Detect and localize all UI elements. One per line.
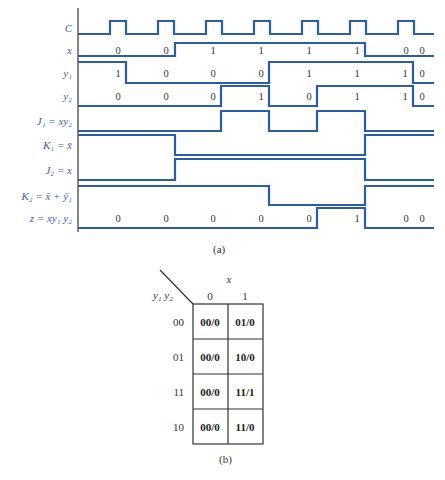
signal-value: 0 [210,68,215,79]
kmap-cell: 00/0 [200,351,220,363]
kmap-cell: 10/0 [235,351,255,363]
signal-label-C: C [65,22,73,34]
signal-value: 0 [419,213,424,224]
kmap-column-header-1: 1 [242,290,248,302]
signal-waveforms: Cx00111100y₁10001110y₂00010110J₁ = xy₂K₁… [20,21,434,228]
signal-value: 1 [354,45,359,56]
signal-value: 1 [115,68,120,79]
signal-label-y2: y₂ [62,90,72,102]
kmap-row-label-00: 00 [173,316,185,328]
figure-a-caption: (a) [213,243,225,255]
signal-label-J1: J₁ = xy₂ [37,115,72,127]
signal-value: 1 [402,91,407,102]
waveform-J2 [78,159,434,180]
signal-value: 0 [115,91,120,102]
signal-value: 1 [210,45,215,56]
kmap-cell: 11/0 [236,421,255,433]
waveform-J1 [78,111,434,131]
signal-value: 0 [163,45,168,56]
kmap-grid-border [193,304,263,444]
signal-value: 1 [354,68,359,79]
signal-label-y1: y₁ [62,67,72,79]
signal-value: 0 [403,45,408,56]
kmap-diagonal-line [160,270,193,304]
signal-label-z: z = xy₁ y₂ [29,212,72,224]
signal-value: 0 [210,91,215,102]
signal-K1: K₁ = x̄ [42,135,434,155]
signal-value: 1 [402,68,407,79]
waveform-z [78,208,434,228]
signal-label-K2: K₂ = x̄ + ȳ₁ [20,190,72,202]
kmap-row-label-11: 11 [173,386,184,398]
signal-J1: J₁ = xy₂ [37,111,434,131]
signal-y1: y₁10001110 [62,62,434,83]
signal-value: 0 [163,68,168,79]
signal-value: 0 [258,213,263,224]
signal-value: 1 [258,45,263,56]
waveform-C [78,21,434,34]
waveform-y1 [78,62,434,83]
signal-value: 0 [163,213,168,224]
signal-z: z = xy₁ y₂00000100 [29,208,434,228]
signal-value: 0 [306,213,311,224]
signal-value: 0 [163,91,168,102]
signal-value: 1 [354,213,359,224]
signal-value: 0 [115,45,120,56]
kmap-cell: 00/0 [200,386,220,398]
signal-x: x00111100 [66,43,434,56]
signal-value: 0 [419,91,424,102]
kmap-column-variable: x [226,273,232,285]
signal-C: C [65,21,434,34]
waveform-K2 [78,186,434,205]
signal-label-K1: K₁ = x̄ [42,139,72,151]
kmap-cell: 01/0 [235,316,255,328]
signal-value: 1 [258,91,263,102]
signal-K2: K₂ = x̄ + ȳ₁ [20,186,434,205]
signal-value: 0 [115,213,120,224]
figure-b-caption: (b) [219,453,232,465]
signal-value: 0 [210,213,215,224]
kmap-column-header-0: 0 [207,290,213,302]
waveform-K1 [78,135,434,155]
signal-value: 0 [419,45,424,56]
kmap-row-label-01: 01 [173,351,184,363]
signal-value: 1 [354,91,359,102]
kmap-cell: 00/0 [200,421,220,433]
kmap-cell: 11/1 [236,386,255,398]
signal-value: 0 [403,213,408,224]
signal-value: 0 [419,68,424,79]
signal-value: 1 [306,68,311,79]
timing-diagram: Cx00111100y₁10001110y₂00010110J₁ = xy₂K₁… [0,0,445,270]
signal-value: 0 [258,68,263,79]
signal-label-x: x [66,44,72,56]
waveform-x [78,43,434,56]
signal-value: 0 [306,91,311,102]
signal-J2: J₂ = x [45,159,434,180]
signal-label-J2: J₂ = x [45,164,72,176]
signal-y2: y₂00010110 [62,86,434,106]
kmap-row-variable: y₁ y₂ [152,289,173,301]
signal-value: 1 [306,45,311,56]
kmap-row-label-10: 10 [173,421,185,433]
kmap-cell: 00/0 [200,316,220,328]
waveform-y2 [78,86,434,106]
